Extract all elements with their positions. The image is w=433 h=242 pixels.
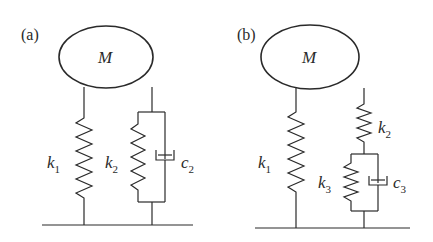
label-k3-b: k3 (318, 173, 332, 195)
label-c3-b: c3 (393, 173, 407, 195)
label-k2-a: k2 (105, 153, 118, 175)
panel-b-label: (b) (237, 26, 256, 44)
mass-b-label: M (301, 48, 317, 67)
panel-a-label: (a) (21, 26, 39, 44)
spring-k2-b (357, 88, 371, 154)
spring-k2-a (131, 112, 145, 202)
label-c2-a: c2 (181, 153, 194, 175)
damper-c2-a (156, 112, 174, 202)
mass-spring-damper-diagram: (a) M k1 k2 c2 (b) (0, 0, 433, 242)
spring-k1-b (288, 88, 304, 228)
label-k1-b: k1 (258, 153, 271, 175)
label-k1-a: k1 (47, 153, 60, 175)
spring-k3-b (344, 154, 358, 211)
label-k2-b: k2 (378, 118, 391, 140)
damper-c3-b (369, 154, 387, 211)
panel-b: (b) M k1 k2 k3 c3 (237, 25, 410, 228)
panel-a: (a) M k1 k2 c2 (21, 26, 194, 225)
spring-k1-a (76, 87, 92, 225)
mass-a-label: M (97, 48, 113, 67)
